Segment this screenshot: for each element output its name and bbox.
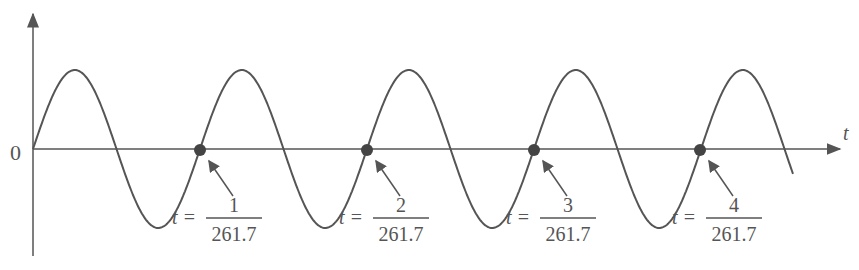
crossing-dot (194, 144, 206, 156)
marker-numerator: 4 (729, 194, 739, 216)
marker-numerator: 3 (563, 194, 573, 216)
pointer-arrow (376, 161, 400, 196)
sine-wave-figure: 0 t t =1261.7t =2261.7t =3261.7t =4261.7 (0, 0, 859, 270)
crossing-dot (694, 144, 706, 156)
pointer-arrow (709, 161, 733, 196)
marker-prefix: t = (172, 206, 196, 228)
pointer-arrow (543, 161, 567, 196)
marker-prefix: t = (506, 206, 530, 228)
marker-numerator: 1 (229, 194, 239, 216)
zero-crossing-marker: t =2261.7 (339, 144, 429, 245)
crossing-dot (361, 144, 373, 156)
zero-crossing-marker: t =1261.7 (172, 144, 262, 245)
marker-denominator: 261.7 (212, 223, 257, 245)
pointer-arrow (209, 161, 233, 196)
marker-denominator: 261.7 (546, 223, 591, 245)
marker-prefix: t = (672, 206, 696, 228)
x-axis-label: t (843, 122, 849, 144)
marker-denominator: 261.7 (712, 223, 757, 245)
crossing-dot (528, 144, 540, 156)
marker-prefix: t = (339, 206, 363, 228)
zero-crossing-marker: t =3261.7 (506, 144, 596, 245)
marker-denominator: 261.7 (379, 223, 424, 245)
marker-numerator: 2 (396, 194, 406, 216)
origin-label: 0 (10, 140, 21, 165)
